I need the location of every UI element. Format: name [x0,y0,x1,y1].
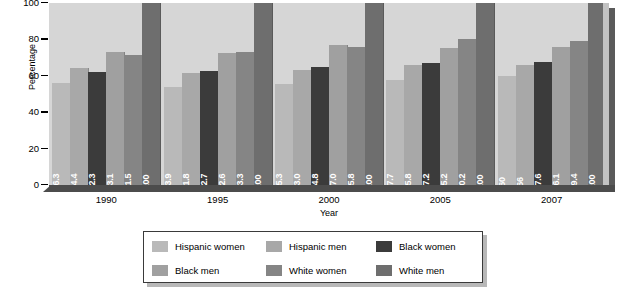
legend-item[interactable]: Black men [152,258,219,282]
legend-item[interactable]: Hispanic women [152,234,245,258]
y-axis-ticks: 020406080100 [0,0,49,192]
legend-swatch [376,241,392,252]
bar-value-label: 75.2 [439,174,449,185]
bar[interactable]: 62.7 [200,71,219,185]
bar[interactable]: 64.4 [70,68,89,185]
x-tick-label: 2000 [299,194,359,205]
bar[interactable]: 62.3 [88,72,107,185]
bar-value-label: 77.0 [328,174,338,185]
bar-group: 606667.676.179.4100 [498,3,606,185]
bar[interactable]: 100 [254,3,273,185]
legend-swatch [152,265,168,276]
plot-area: 56.364.462.373.171.510053.961.862.772.67… [49,3,609,185]
y-tick: 0 [0,179,49,191]
legend-label: White women [289,265,347,276]
bar-value-label: 71.5 [123,174,133,185]
bar[interactable]: 71.5 [124,55,143,185]
bar-value-label: 53.9 [163,174,173,185]
legend-swatch [266,265,282,276]
bar[interactable]: 100 [142,3,161,185]
bar-value-label: 100 [475,175,485,185]
bar[interactable]: 80.2 [458,39,477,185]
bar[interactable]: 76.1 [552,47,571,186]
x-tick-label: 2007 [522,194,582,205]
bar-value-label: 100 [587,175,597,185]
bar[interactable]: 72.6 [218,53,237,185]
bar-value-label: 73.3 [235,174,245,185]
bar[interactable]: 73.1 [106,52,125,185]
legend-label: White men [399,265,444,276]
legend-item[interactable]: Hispanic men [266,234,347,258]
bar[interactable]: 66 [516,65,535,185]
legend-swatch [152,241,168,252]
bar-group: 53.961.862.772.673.3100 [164,3,272,185]
bar-value-label: 60 [497,177,507,185]
bar[interactable]: 73.3 [236,52,255,185]
bar-value-label: 72.6 [217,174,227,185]
bar[interactable]: 53.9 [164,87,183,185]
legend-label: Black women [399,241,456,252]
bar-group: 57.765.867.275.280.2100 [386,3,494,185]
x-axis-title: Year [49,208,609,218]
plot-right-wall [603,3,609,185]
bar[interactable]: 63.0 [293,70,312,185]
bar-value-label: 56.3 [51,174,61,185]
bar-value-label: 66 [515,177,525,185]
bar[interactable]: 79.4 [570,41,589,186]
bar[interactable]: 100 [476,3,495,185]
bar-value-label: 75.8 [346,174,356,185]
y-tick-label: 40 [28,106,39,118]
bar[interactable]: 67.6 [534,62,553,185]
bar[interactable]: 65.8 [404,65,423,185]
bar-value-label: 57.7 [385,174,395,185]
bar[interactable]: 75.8 [347,47,366,185]
bar-value-label: 65.8 [403,174,413,185]
y-tick-label: 80 [28,33,39,45]
legend-label: Hispanic men [289,241,347,252]
bar-value-label: 79.4 [569,174,579,185]
chart-legend: Hispanic womenHispanic menBlack womenBla… [143,231,483,283]
bar-value-label: 100 [364,175,374,185]
bar[interactable]: 61.8 [182,73,201,185]
bar[interactable]: 60 [498,76,517,185]
y-tick-mark [41,38,48,39]
y-tick-mark [41,111,48,112]
y-tick-mark [41,184,48,185]
bar[interactable]: 57.7 [386,80,405,185]
bar-value-label: 55.3 [274,174,284,185]
bar-group: 55.363.064.877.075.8100 [275,3,383,185]
bar[interactable]: 55.3 [275,84,294,185]
bar-value-label: 67.6 [533,174,543,185]
y-tick-label: 60 [28,70,39,82]
bar-value-label: 64.4 [69,174,79,185]
bar[interactable]: 64.8 [311,67,330,185]
bar-chart-figure: Percentage 020406080100 56.364.462.373.1… [0,0,623,292]
bar[interactable]: 56.3 [52,83,71,185]
bar-value-label: 63.0 [292,174,302,185]
x-tick-label: 1995 [188,194,248,205]
bar-value-label: 100 [141,175,151,185]
y-tick: 60 [0,70,49,82]
bar-value-label: 80.2 [457,174,467,185]
y-tick-label: 0 [34,179,39,191]
bar-value-label: 64.8 [310,174,320,185]
bar-group: 56.364.462.373.171.5100 [52,3,160,185]
legend-item[interactable]: White women [266,258,347,282]
y-tick: 80 [0,33,49,45]
legend-swatch [266,241,282,252]
bar-value-label: 62.3 [87,174,97,185]
bar[interactable]: 67.2 [422,63,441,185]
legend-item[interactable]: White men [376,258,444,282]
bar[interactable]: 75.2 [440,48,459,185]
bar[interactable]: 100 [365,3,384,185]
y-tick-label: 20 [28,143,39,155]
bar[interactable]: 77.0 [329,45,348,185]
bar-value-label: 67.2 [421,174,431,185]
y-tick: 40 [0,106,49,118]
y-tick-mark [41,2,48,3]
bar-value-label: 62.7 [199,174,209,185]
bar-value-label: 100 [253,175,263,185]
y-tick: 100 [0,0,49,9]
plot-floor [49,185,615,192]
legend-item[interactable]: Black women [376,234,456,258]
